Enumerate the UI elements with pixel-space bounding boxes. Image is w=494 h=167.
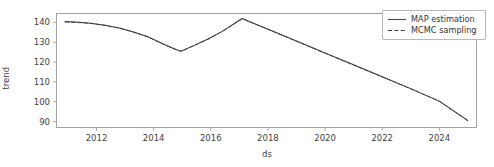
y-tick-label: 140: [0, 18, 50, 27]
x-tick-label: 2018: [257, 134, 279, 143]
y-tick-label: 120: [0, 58, 50, 67]
y-tick-marks: [53, 22, 56, 121]
y-axis-label: trend: [2, 67, 11, 90]
x-tick-label: 2014: [143, 134, 165, 143]
legend-item-map: MAP estimation: [387, 14, 481, 25]
legend-item-mcmc: MCMC sampling: [387, 25, 481, 36]
x-tick-label: 2016: [200, 134, 222, 143]
x-tick-label: 2020: [314, 134, 336, 143]
x-tick-label: 2022: [371, 134, 393, 143]
x-tick-label: 2024: [429, 134, 451, 143]
x-axis-label: ds: [262, 150, 272, 159]
chart-figure: 90100110120130140 2012201420162018202020…: [0, 0, 494, 167]
legend-label-mcmc: MCMC sampling: [411, 26, 477, 34]
x-tick-marks: [97, 128, 440, 131]
chart-legend[interactable]: MAP estimation MCMC sampling: [382, 10, 486, 40]
dashed-line-icon: [387, 26, 407, 35]
solid-line-icon: [387, 15, 407, 24]
y-tick-label: 90: [0, 117, 50, 126]
y-tick-label: 130: [0, 38, 50, 47]
legend-label-map: MAP estimation: [411, 15, 475, 23]
x-tick-label: 2012: [86, 134, 108, 143]
y-tick-label: 100: [0, 97, 50, 106]
